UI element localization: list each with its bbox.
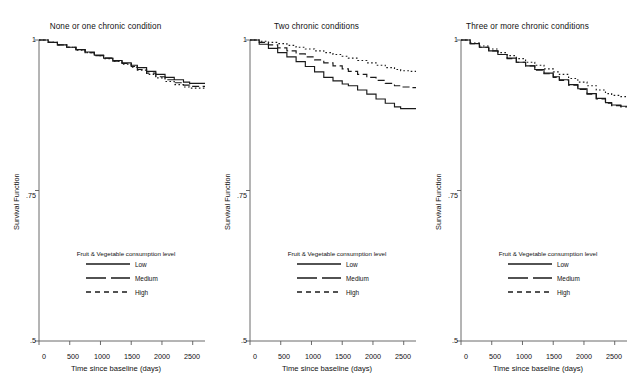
- x-tick-label-2500: 2500: [390, 352, 416, 361]
- survival-curves-figure: None or one chronic condition Survival F…: [0, 0, 635, 381]
- legend-label-high: High: [346, 289, 359, 296]
- legend: Fruit & Vegetable consumption level Low …: [468, 250, 628, 302]
- y-tick-label-05: .5: [436, 336, 458, 345]
- legend-label-medium: Medium: [135, 275, 158, 282]
- y-tick-label-1: 1: [225, 35, 247, 44]
- x-tick-label-2000: 2000: [360, 352, 386, 361]
- legend-item-high[interactable]: High: [257, 288, 417, 296]
- panel-none-or-one-chronic-condition: None or one chronic condition Survival F…: [0, 0, 211, 381]
- y-tick-label-05: .5: [14, 336, 36, 345]
- panel-two-chronic-conditions: Two chronic conditions Survival Function…: [211, 0, 422, 381]
- legend-key-dotted-icon: [508, 288, 552, 296]
- legend-label-high: High: [135, 289, 148, 296]
- legend-label-low: Low: [135, 261, 147, 268]
- legend: Fruit & Vegetable consumption level Low …: [46, 250, 206, 302]
- x-tick-label-1500: 1500: [541, 352, 567, 361]
- x-tick-label-500: 500: [273, 352, 295, 361]
- x-tick-label-1500: 1500: [119, 352, 145, 361]
- y-axis-label: Survival Function: [12, 173, 21, 230]
- legend-label-low: Low: [346, 261, 358, 268]
- legend-key-dashed-icon: [508, 274, 552, 282]
- x-tick-label-0: 0: [37, 352, 51, 361]
- legend-key-solid-icon: [508, 260, 552, 268]
- legend-item-medium[interactable]: Medium: [468, 274, 628, 282]
- x-tick-label-1000: 1000: [511, 352, 537, 361]
- legend-label-low: Low: [557, 261, 569, 268]
- x-tick-label-500: 500: [484, 352, 506, 361]
- x-tick-label-0: 0: [248, 352, 262, 361]
- y-tick-label-1: 1: [14, 35, 36, 44]
- legend-item-low[interactable]: Low: [46, 260, 206, 268]
- legend-item-medium[interactable]: Medium: [46, 274, 206, 282]
- x-axis-label: Time since baseline (days): [237, 364, 417, 373]
- legend-key-solid-icon: [297, 260, 341, 268]
- legend: Fruit & Vegetable consumption level Low …: [257, 250, 417, 302]
- legend-title: Fruit & Vegetable consumption level: [257, 250, 417, 257]
- y-axis-label: Survival Function: [434, 173, 443, 230]
- y-tick-label-1: 1: [436, 35, 458, 44]
- x-tick-label-2000: 2000: [149, 352, 175, 361]
- x-tick-label-2000: 2000: [571, 352, 597, 361]
- legend-key-dotted-icon: [86, 288, 130, 296]
- y-tick-label-075: .75: [225, 191, 247, 200]
- legend-item-low[interactable]: Low: [257, 260, 417, 268]
- legend-label-high: High: [557, 289, 570, 296]
- legend-key-dashed-icon: [297, 274, 341, 282]
- x-tick-label-0: 0: [459, 352, 473, 361]
- legend-key-dashed-icon: [86, 274, 130, 282]
- legend-key-dotted-icon: [297, 288, 341, 296]
- legend-key-solid-icon: [86, 260, 130, 268]
- legend-title: Fruit & Vegetable consumption level: [468, 250, 628, 257]
- y-tick-label-05: .5: [225, 336, 247, 345]
- x-tick-label-1000: 1000: [300, 352, 326, 361]
- legend-title: Fruit & Vegetable consumption level: [46, 250, 206, 257]
- legend-item-low[interactable]: Low: [468, 260, 628, 268]
- x-axis-label: Time since baseline (days): [26, 364, 206, 373]
- legend-label-medium: Medium: [557, 275, 580, 282]
- x-tick-label-500: 500: [62, 352, 84, 361]
- legend-item-high[interactable]: High: [468, 288, 628, 296]
- y-tick-label-075: .75: [14, 191, 36, 200]
- panel-three-or-more-chronic-conditions: Three or more chronic conditions Surviva…: [422, 0, 633, 381]
- y-axis-label: Survival Function: [223, 173, 232, 230]
- x-axis-label: Time since baseline (days): [448, 364, 628, 373]
- legend-label-medium: Medium: [346, 275, 369, 282]
- legend-item-medium[interactable]: Medium: [257, 274, 417, 282]
- x-tick-label-1500: 1500: [330, 352, 356, 361]
- x-tick-label-1000: 1000: [89, 352, 115, 361]
- x-tick-label-2500: 2500: [179, 352, 205, 361]
- y-tick-label-075: .75: [436, 191, 458, 200]
- x-tick-label-2500: 2500: [601, 352, 627, 361]
- legend-item-high[interactable]: High: [46, 288, 206, 296]
